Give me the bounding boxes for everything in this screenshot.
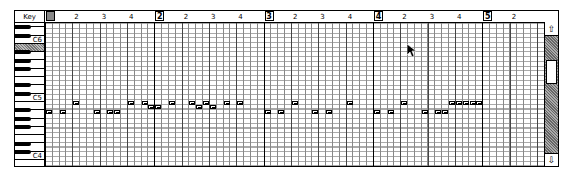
piano-roll-editor: Key 23422343234423452 C6C5C4 ⇧ ⇩ — [14, 10, 559, 167]
bar-line — [373, 23, 374, 166]
piano-black-key[interactable] — [15, 108, 31, 112]
beat-number: 4 — [238, 12, 242, 22]
note-e5[interactable] — [456, 101, 462, 105]
beat-number: 2 — [402, 12, 406, 22]
beat-line — [72, 23, 73, 166]
beat-line — [346, 23, 347, 166]
vertical-scrollbar[interactable]: ⇧ ⇩ — [544, 23, 558, 166]
note-c5[interactable] — [265, 110, 271, 114]
beat-line — [537, 23, 538, 166]
note-c5[interactable] — [326, 110, 332, 114]
note-e5[interactable] — [169, 101, 175, 105]
piano-black-key[interactable] — [15, 125, 31, 129]
beat-line — [100, 23, 101, 166]
bar-line — [154, 23, 155, 166]
beat-number: 2 — [184, 12, 188, 22]
note-c5[interactable] — [422, 110, 428, 114]
measure-marker-5[interactable]: 5 — [483, 11, 492, 21]
measure-marker-3[interactable]: 3 — [265, 11, 274, 21]
note-d5[interactable] — [210, 105, 216, 109]
beat-line — [236, 23, 237, 166]
beat-number: 2 — [293, 12, 297, 22]
piano-black-key[interactable] — [15, 67, 31, 71]
piano-black-key[interactable] — [15, 92, 31, 96]
note-c5[interactable] — [442, 110, 448, 114]
measure-marker-4[interactable]: 4 — [374, 11, 383, 21]
beat-number: 3 — [211, 12, 215, 22]
bar-line — [45, 23, 46, 166]
beat-number: 4 — [129, 12, 133, 22]
note-c5[interactable] — [46, 110, 52, 114]
beat-number: 3 — [430, 12, 434, 22]
beat-line — [455, 23, 456, 166]
key-column-header: Key — [15, 11, 45, 23]
note-e5[interactable] — [128, 101, 134, 105]
piano-black-key[interactable] — [15, 142, 31, 146]
measure-marker-1[interactable] — [46, 11, 55, 21]
piano-keyboard[interactable]: C6C5C4 — [15, 23, 45, 166]
beat-line — [400, 23, 401, 166]
note-c5[interactable] — [388, 110, 394, 114]
piano-black-key[interactable] — [15, 83, 31, 87]
measure-ruler[interactable]: 23422343234423452 — [45, 11, 545, 23]
piano-black-key[interactable] — [15, 50, 31, 54]
note-e5[interactable] — [189, 101, 195, 105]
note-c5[interactable] — [374, 110, 380, 114]
beat-number: 2 — [512, 12, 516, 22]
mouse-pointer-icon — [407, 44, 417, 58]
beat-line — [209, 23, 210, 166]
beat-line — [428, 23, 429, 166]
note-e5[interactable] — [292, 101, 298, 105]
note-e5[interactable] — [463, 101, 469, 105]
note-e5[interactable] — [449, 101, 455, 105]
beat-line — [318, 23, 319, 166]
note-e5[interactable] — [73, 101, 79, 105]
note-e5[interactable] — [142, 101, 148, 105]
note-e5[interactable] — [224, 101, 230, 105]
note-c5[interactable] — [107, 110, 113, 114]
piano-black-key[interactable] — [15, 34, 31, 38]
note-e5[interactable] — [476, 101, 482, 105]
beat-line — [291, 23, 292, 166]
beat-number: 3 — [320, 12, 324, 22]
beat-number: 4 — [348, 12, 352, 22]
note-grid[interactable] — [45, 23, 545, 166]
bar-line — [264, 23, 265, 166]
scroll-thumb[interactable] — [546, 60, 557, 84]
note-e5[interactable] — [470, 101, 476, 105]
note-e5[interactable] — [237, 101, 243, 105]
note-e5[interactable] — [401, 101, 407, 105]
note-c5[interactable] — [435, 110, 441, 114]
note-c5[interactable] — [60, 110, 66, 114]
piano-black-key[interactable] — [15, 25, 31, 29]
beat-number: 4 — [457, 12, 461, 22]
note-d5[interactable] — [148, 105, 154, 109]
piano-black-key[interactable] — [15, 117, 31, 121]
note-d5[interactable] — [155, 105, 161, 109]
piano-black-key[interactable] — [15, 150, 31, 154]
note-c5[interactable] — [278, 110, 284, 114]
beat-line — [182, 23, 183, 166]
beat-line — [127, 23, 128, 166]
note-c5[interactable] — [94, 110, 100, 114]
scroll-down-arrow-icon[interactable]: ⇩ — [545, 153, 558, 166]
scroll-track[interactable] — [545, 35, 558, 154]
piano-black-key[interactable] — [15, 59, 31, 63]
note-e5[interactable] — [203, 101, 209, 105]
note-d5[interactable] — [196, 105, 202, 109]
beat-number: 2 — [74, 12, 78, 22]
beat-number: 3 — [102, 12, 106, 22]
note-e5[interactable] — [347, 101, 353, 105]
beat-line — [510, 23, 511, 166]
piano-key-b3[interactable] — [15, 160, 44, 166]
bar-line — [482, 23, 483, 166]
note-c5[interactable] — [114, 110, 120, 114]
note-c5[interactable] — [312, 110, 318, 114]
measure-marker-2[interactable]: 2 — [155, 11, 164, 21]
